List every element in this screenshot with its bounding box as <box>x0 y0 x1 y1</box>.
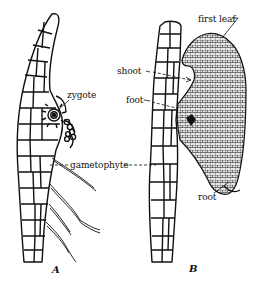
sporophyte <box>177 33 246 194</box>
foot-dashed <box>152 102 176 108</box>
fern-development-figure: zygote shoot foot first leaf gametophyte… <box>0 0 261 282</box>
panel-letter-a: A <box>52 264 60 275</box>
label-zygote: zygote <box>67 90 96 100</box>
label-shoot: shoot <box>117 66 141 76</box>
panel-b-gametophyte <box>149 21 181 262</box>
label-gametophyte: gametophyte <box>70 160 129 170</box>
foot-leader <box>144 100 150 101</box>
shoot-dashed-arrow <box>153 72 190 80</box>
diagram-drawing <box>0 0 261 282</box>
label-foot: foot <box>126 95 143 105</box>
panel-letter-b: B <box>189 263 197 274</box>
label-root: root <box>198 192 216 202</box>
panel-a-gametophyte <box>17 14 100 262</box>
shoot-leader <box>146 71 150 72</box>
label-first-leaf: first leaf <box>198 14 236 24</box>
